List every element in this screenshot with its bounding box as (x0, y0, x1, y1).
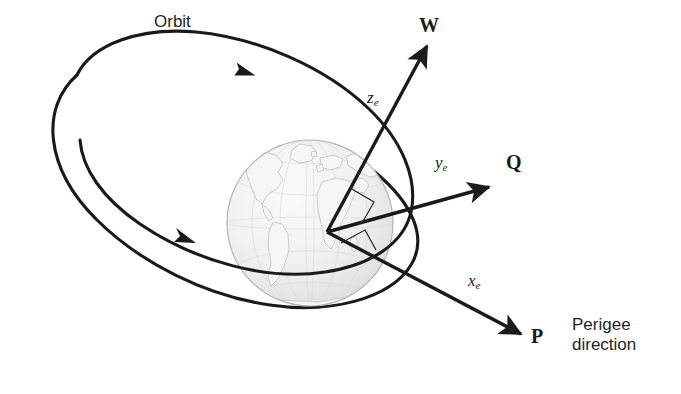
z-axis-subscript: e (374, 96, 379, 108)
z-axis-label: ze (367, 88, 379, 107)
p-vector-label: P (531, 325, 543, 347)
y-axis-label: ye (435, 153, 447, 172)
w-vector-label: W (419, 14, 439, 36)
orbit-label: Orbit (154, 12, 191, 31)
x-axis-subscript: e (476, 279, 481, 291)
perigee-direction-label: Perigee direction (572, 315, 636, 355)
perigee-direction-line-2: direction (572, 335, 636, 355)
perigee-direction-line-1: Perigee (572, 315, 636, 335)
y-axis-subscript: e (443, 161, 448, 173)
orbital-reference-frame-figure: Orbit W ze Q ye P xe Perigee direction (0, 0, 681, 394)
z-axis-symbol: z (367, 88, 374, 107)
x-axis-label: xe (468, 271, 480, 290)
y-axis-symbol: y (435, 153, 443, 172)
x-axis-symbol: x (468, 271, 476, 290)
q-vector-label: Q (506, 151, 522, 173)
earth-globe (227, 140, 393, 309)
